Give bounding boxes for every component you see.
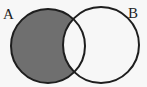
venn-diagram: A B [0,0,147,87]
label-b: B [128,5,138,21]
venn-svg: A B [0,0,147,87]
label-a: A [3,6,14,22]
